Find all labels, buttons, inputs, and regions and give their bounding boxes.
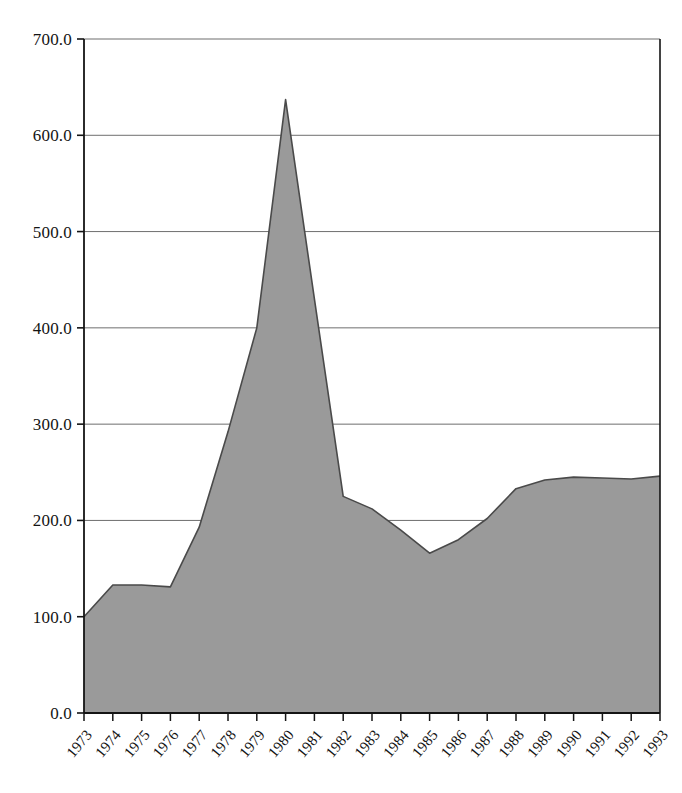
y-tick-label-200.0: 200.0 [33,511,72,530]
y-tick-label-300.0: 300.0 [33,415,72,434]
chart-container: 0.0100.0200.0300.0400.0500.0600.0700.0 1… [0,0,682,793]
x-axis-ticks [84,713,660,721]
y-tick-label-500.0: 500.0 [33,223,72,242]
y-tick-label-600.0: 600.0 [33,126,72,145]
y-tick-label-0.0: 0.0 [50,704,72,723]
y-tick-label-700.0: 700.0 [33,30,72,49]
y-tick-label-100.0: 100.0 [33,608,72,627]
area-chart: 0.0100.0200.0300.0400.0500.0600.0700.0 1… [0,0,682,793]
y-tick-label-400.0: 400.0 [33,319,72,338]
